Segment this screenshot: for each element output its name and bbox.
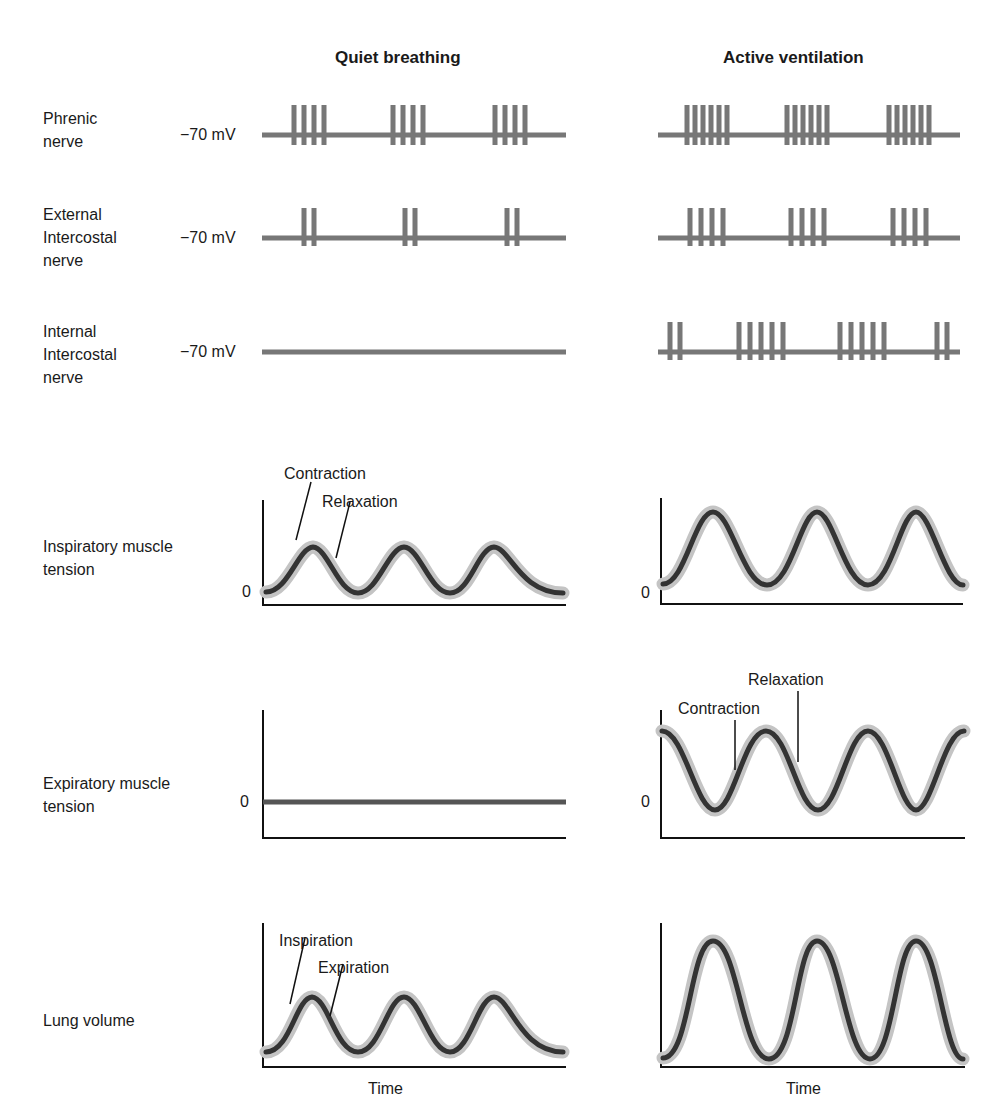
- spike-train-external-intercostal-active: [658, 208, 960, 246]
- diagram-canvas: .base{stroke:#777777;stroke-width:5;fill…: [0, 0, 1004, 1114]
- plot-inspiratory-tension-active: [661, 498, 963, 604]
- plot-expiratory-tension-quiet: [263, 710, 566, 838]
- plot-lung-volume-quiet: [263, 923, 566, 1067]
- spike-train-phrenic-quiet: [262, 105, 566, 145]
- plot-inspiratory-tension-quiet: [263, 482, 566, 605]
- spike-train-external-intercostal-quiet: [262, 208, 566, 246]
- spike-train-internal-intercostal-active: [658, 322, 960, 360]
- plot-expiratory-tension-active: [661, 691, 965, 838]
- plot-lung-volume-active: [661, 923, 965, 1067]
- spike-train-phrenic-active: [658, 105, 960, 145]
